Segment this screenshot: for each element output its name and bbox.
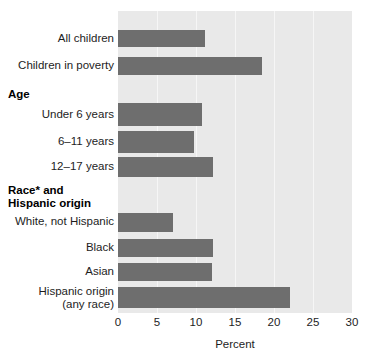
x-tick-label-30: 30: [346, 315, 359, 329]
bar-4: [118, 157, 213, 177]
bar-5: [118, 213, 173, 232]
x-tick-label-15: 15: [229, 315, 242, 329]
gridline-25: [313, 11, 314, 313]
gridline-20: [274, 11, 275, 313]
group-heading-age: Age: [8, 88, 118, 101]
x-tick-label-10: 10: [190, 315, 203, 329]
category-labels: All children Children in poverty Age Und…: [0, 0, 114, 313]
category-label-6-11-years: 6–11 years: [0, 135, 114, 148]
bar-chart: All children Children in poverty Age Und…: [0, 0, 371, 364]
category-label-under-6-years: Under 6 years: [0, 108, 114, 121]
x-tick-label-20: 20: [268, 315, 281, 329]
category-label-12-17-years: 12–17 years: [0, 160, 114, 173]
x-tick-label-5: 5: [154, 315, 160, 329]
category-label-white-not-hispanic: White, not Hispanic: [0, 215, 114, 228]
category-label-all-children: All children: [0, 32, 114, 45]
bar-6: [118, 239, 213, 257]
group-heading-race-hispanic-origin: Race* and Hispanic origin: [8, 184, 118, 210]
category-label-children-in-poverty: Children in poverty: [0, 59, 114, 72]
bar-7: [118, 263, 212, 281]
bar-2: [118, 103, 202, 126]
bar-0: [118, 30, 205, 47]
plot-area: [118, 11, 352, 313]
bar-8: [118, 287, 290, 308]
category-label-asian: Asian: [0, 265, 114, 278]
x-axis-title: Percent: [118, 338, 352, 350]
bar-3: [118, 131, 194, 153]
category-label-hispanic-origin: Hispanic origin (any race): [0, 285, 114, 311]
category-label-black: Black: [0, 241, 114, 254]
x-tick-label-0: 0: [115, 315, 121, 329]
x-axis: 051015202530: [0, 315, 371, 331]
x-tick-label-25: 25: [307, 315, 320, 329]
bar-1: [118, 57, 262, 75]
